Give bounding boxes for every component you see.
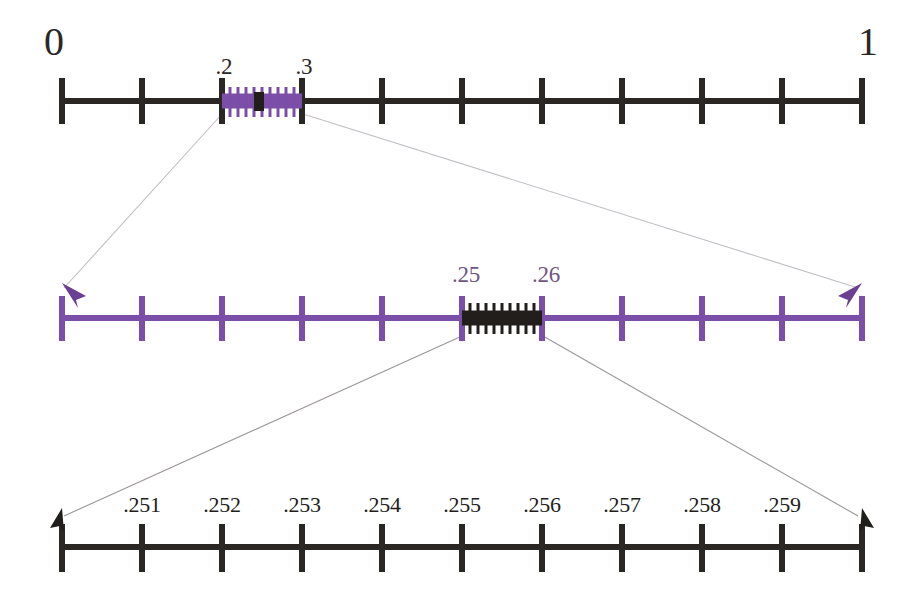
label-line1-point-three: .3: [296, 55, 313, 78]
label-line3-258: .258: [683, 494, 721, 516]
level2-arrow-right: [838, 283, 862, 308]
level2-highlight-interval: [462, 303, 542, 334]
number-line-level-2: [62, 283, 862, 341]
label-line1-one: 1: [858, 22, 878, 62]
label-line2-point-two-five: .25: [452, 263, 480, 286]
label-line3-259: .259: [763, 494, 801, 516]
connector-left-l2-l3: [64, 336, 462, 516]
level2-arrow-left: [62, 283, 86, 308]
number-line-level-3: [50, 508, 874, 572]
number-line-figure: 0 .2 .3 1 .25 .26 .251 .252 .253 .254 .2…: [0, 0, 914, 592]
level1-inner-mark: [254, 92, 264, 111]
level1-highlight-interval: [222, 87, 302, 117]
label-line3-255: .255: [443, 494, 481, 516]
connector-left-l1-l2: [64, 114, 222, 288]
number-line-level-1: [62, 78, 862, 124]
connector-group-level2-to-level3: [64, 336, 858, 516]
label-line3-251: .251: [123, 494, 161, 516]
label-line3-252: .252: [203, 494, 241, 516]
connector-right-l1-l2: [303, 114, 858, 288]
level3-arrow-left: [50, 508, 64, 532]
level3-arrow-right: [860, 508, 874, 532]
connector-right-l2-l3: [543, 336, 858, 516]
label-line3-254: .254: [363, 494, 401, 516]
label-line2-point-two-six: .26: [532, 263, 560, 286]
label-line3-253: .253: [283, 494, 321, 516]
label-line1-point-two: .2: [216, 55, 233, 78]
label-line1-zero: 0: [44, 22, 64, 62]
label-line3-256: .256: [523, 494, 561, 516]
label-line3-257: .257: [603, 494, 641, 516]
